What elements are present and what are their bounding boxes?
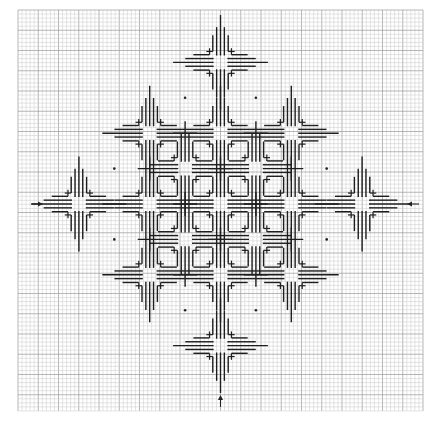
reference-dot: [113, 167, 116, 170]
star-motif: [244, 227, 339, 322]
reference-dot: [113, 238, 116, 241]
stitch-chart: [0, 0, 442, 426]
arrow-up-icon: [218, 395, 223, 407]
reference-dot: [255, 97, 258, 100]
reference-dot: [184, 309, 187, 312]
reference-dot: [325, 167, 328, 170]
arrow-left-icon: [407, 201, 419, 206]
reference-dot: [255, 309, 258, 312]
arrow-right-icon: [31, 201, 43, 206]
reference-dot: [325, 238, 328, 241]
star-motif: [209, 192, 304, 287]
reference-dot: [184, 97, 187, 100]
arrow-head: [218, 395, 223, 400]
arrow-head: [407, 201, 412, 206]
